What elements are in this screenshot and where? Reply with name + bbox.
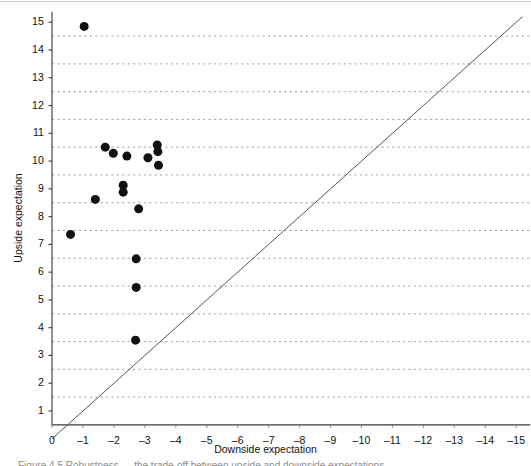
- data-point: [131, 336, 140, 345]
- x-axis-title: Downside expectation: [0, 443, 531, 455]
- figure-container: 1234567891011121314150–1–2–3–4–5–6–7–8–9…: [0, 0, 531, 466]
- data-point: [122, 152, 131, 161]
- y-tick-label: 13: [8, 72, 44, 83]
- y-tick-label: 2: [8, 377, 44, 388]
- scatter-plot-canvas: [0, 0, 531, 466]
- y-tick-label: 1: [8, 405, 44, 416]
- gridlines: [52, 36, 530, 397]
- data-point: [134, 204, 143, 213]
- data-point: [66, 230, 75, 239]
- y-tick-label: 12: [8, 100, 44, 111]
- data-point-group: [66, 22, 163, 345]
- y-tick-label: 15: [8, 16, 44, 27]
- data-point: [119, 188, 128, 197]
- data-point: [80, 22, 89, 31]
- y-axis-title: Upside expectation: [12, 138, 24, 298]
- diagonal-reference-line: [52, 17, 522, 439]
- y-tick-label: 3: [8, 349, 44, 360]
- data-point: [91, 195, 100, 204]
- figure-caption: Figure 4.5 Robustness — the trade-off be…: [18, 460, 518, 466]
- y-tick-label: 14: [8, 44, 44, 55]
- data-point: [132, 254, 141, 263]
- data-point: [154, 161, 163, 170]
- data-point: [109, 149, 118, 158]
- data-point: [153, 147, 162, 156]
- data-point: [132, 283, 141, 292]
- data-point: [143, 153, 152, 162]
- y-tick-label: 11: [8, 127, 44, 138]
- data-point: [101, 143, 110, 152]
- y-tick-label: 4: [8, 322, 44, 333]
